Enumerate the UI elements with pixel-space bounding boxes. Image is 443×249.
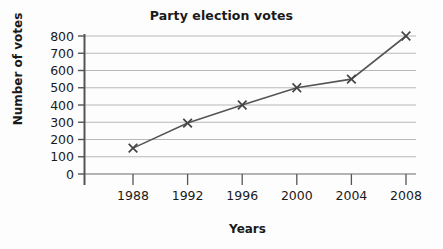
chart-container: Party election votes Number of votes Yea…: [0, 0, 443, 249]
x-tick-labels-group: 198819921996200020042008: [117, 188, 422, 203]
y-tick-label: 300: [50, 115, 74, 130]
y-tick-label: 100: [50, 149, 74, 164]
data-point-marker: [183, 119, 192, 128]
y-tick-label: 600: [50, 63, 74, 78]
x-tick-label: 1988: [117, 188, 149, 203]
x-tick-label: 2008: [390, 188, 422, 203]
data-point-markers-group: [129, 32, 411, 153]
data-point-marker: [129, 144, 138, 153]
y-tick-labels-group: 0100200300400500600700800: [50, 29, 74, 182]
y-tick-label: 0: [66, 167, 74, 182]
x-tick-label: 1996: [226, 188, 258, 203]
x-tick-label: 2000: [281, 188, 313, 203]
y-tick-label: 800: [50, 29, 74, 44]
plot-area: 0100200300400500600700800 19881992199620…: [0, 0, 443, 249]
y-tick-label: 400: [50, 98, 74, 113]
y-tick-label: 200: [50, 132, 74, 147]
x-tick-label: 2004: [335, 188, 367, 203]
y-tick-label: 500: [50, 80, 74, 95]
y-tick-label: 700: [50, 46, 74, 61]
x-tick-marks-group: [133, 174, 406, 185]
x-tick-label: 1992: [172, 188, 204, 203]
gridlines-group: [85, 36, 416, 174]
